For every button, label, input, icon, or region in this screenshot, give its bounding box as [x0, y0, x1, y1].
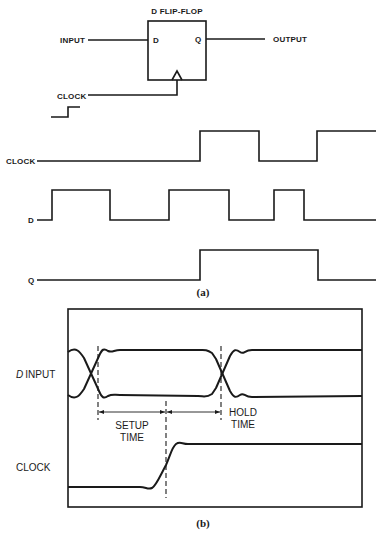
- hold-label-line2: TIME: [231, 419, 255, 430]
- q-wave-label: Q: [28, 276, 34, 285]
- setup-hold-diagram: DINPUT SETUP TIME HOLD TIME CLOCK (b): [16, 309, 362, 530]
- pin-d-label: D: [153, 36, 159, 45]
- hold-time-arrow: [167, 410, 220, 414]
- flip-flop-block: D FLIP-FLOP D Q INPUT OUTPUT CLOCK: [51, 7, 307, 117]
- clock-waveform: [37, 131, 376, 161]
- input-label: INPUT: [60, 36, 85, 45]
- timing-diagram: D FLIP-FLOP D Q INPUT OUTPUT CLOCK CLOCK…: [0, 0, 379, 533]
- rising-edge-icon: [51, 107, 80, 117]
- output-label: OUTPUT: [273, 35, 307, 44]
- diagram-frame: [68, 309, 362, 507]
- d-input-label: DINPUT: [16, 369, 55, 380]
- caption-b: (b): [196, 517, 210, 530]
- pin-q-label: Q: [195, 35, 201, 44]
- clock-wave-label: CLOCK: [6, 157, 35, 166]
- clock-b-label: CLOCK: [16, 462, 51, 473]
- caption-a: (a): [197, 286, 210, 299]
- flip-flop-title: D FLIP-FLOP: [151, 7, 203, 16]
- waveforms-a: CLOCK D Q (a): [6, 131, 376, 299]
- d-waveform: [37, 190, 376, 220]
- setup-time-arrow: [99, 410, 165, 414]
- hold-label-line1: HOLD: [229, 407, 257, 418]
- clock-input-label: CLOCK: [57, 92, 86, 101]
- clock-input-triangle-icon: [172, 71, 182, 80]
- setup-label-line2: TIME: [120, 432, 144, 443]
- clock-b-trace: [68, 443, 362, 489]
- clock-wire: [88, 80, 177, 95]
- d-wave-label: D: [28, 216, 34, 225]
- q-waveform: [37, 250, 376, 280]
- setup-label-line1: SETUP: [115, 420, 149, 431]
